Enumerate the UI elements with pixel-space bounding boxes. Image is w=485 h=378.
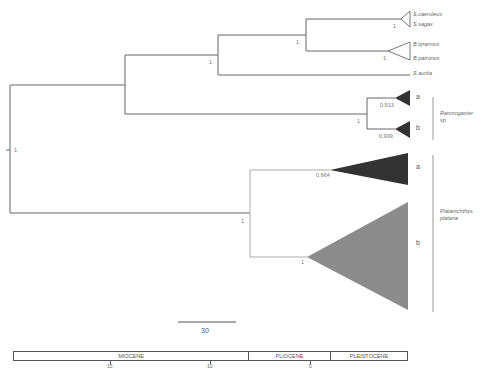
taxon-label: S.caeruleus (413, 12, 442, 18)
collapsed-clade-sardinops (401, 11, 410, 27)
support-value: 1 (357, 119, 360, 125)
group-label-rhamnogaster: Ramnogaster sp. (440, 110, 473, 124)
timeline-tick-label: 5 (309, 363, 312, 369)
group-label-line: Platanichthys (440, 208, 473, 215)
support-value: 1 (241, 219, 244, 225)
group-label-platanichthys: Platanichthys platana (440, 208, 473, 222)
epoch-miocene: MIOCENE (14, 352, 249, 360)
support-value: 1 (14, 148, 17, 154)
clade-label: a (416, 163, 420, 170)
group-label-line: platana (440, 215, 473, 222)
clade-label: b (416, 124, 420, 131)
support-value: 1 (301, 260, 304, 266)
timeline-tick-label: 15 (107, 363, 113, 369)
epoch-pliocene: PLIOCENE (249, 352, 331, 360)
collapsed-clade-platanichthys-a (330, 153, 408, 185)
support-value: 0.964 (316, 173, 330, 179)
timeline-tick-label: 10 (207, 363, 213, 369)
support-value: 1 (296, 40, 299, 46)
collapsed-clade-brevoortia (388, 42, 410, 60)
taxon-label: B.patronus (413, 56, 440, 62)
phylogenetic-tree (0, 0, 485, 345)
support-value: 0.913 (380, 103, 394, 109)
support-value: 1 (383, 56, 386, 62)
collapsed-clade-platanichthys-b (307, 202, 408, 310)
taxon-label: S.sagax (413, 22, 433, 28)
scale-bar-label: 30 (201, 327, 209, 334)
group-label-line: sp. (440, 117, 473, 124)
clade-label: a (416, 93, 420, 100)
taxon-label: S.aurita (413, 71, 432, 77)
geologic-timeline: MIOCENE PLIOCENE PLEISTOCENE (13, 351, 408, 361)
group-label-line: Ramnogaster (440, 110, 473, 117)
support-value: 1 (209, 60, 212, 66)
collapsed-clade-rhamnogaster-b (395, 121, 410, 138)
taxon-label: B.tyrannus (413, 42, 439, 48)
figure-caption-cropped (0, 373, 485, 378)
clade-label: b (416, 239, 420, 246)
collapsed-clade-rhamnogaster-a (395, 90, 410, 106)
epoch-pleistocene: PLEISTOCENE (331, 352, 407, 360)
support-value: 1 (393, 24, 396, 30)
support-value: 0.999 (379, 134, 393, 140)
